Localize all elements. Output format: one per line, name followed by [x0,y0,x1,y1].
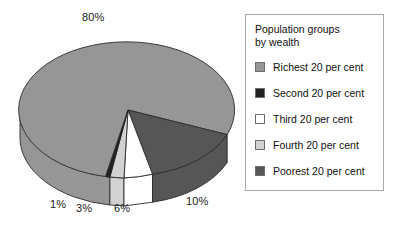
legend-title-line-1: Population groups [255,23,383,36]
legend-swatch-fourth [255,140,265,150]
legend-label-richest: Richest 20 per cent [273,61,363,73]
slice-value-label-richest: 80% [82,11,104,23]
legend-swatch-richest [255,62,265,72]
legend-label-poorest: Poorest 20 per cent [273,165,365,177]
slice-value-label-second: 1% [50,198,66,210]
legend-swatch-third [255,114,265,124]
legend-label-third: Third 20 per cent [273,113,352,125]
legend-swatch-second [255,88,265,98]
chart-legend: Population groups by wealth Richest 20 p… [245,14,384,191]
legend-item-third[interactable]: Third 20 per cent [255,107,383,130]
legend-item-poorest[interactable]: Poorest 20 per cent [255,159,383,182]
slice-value-label-fourth: 3% [76,202,92,214]
legend-title: Population groups by wealth [255,23,383,48]
pie-top-faces [19,42,235,178]
legend-swatch-poorest [255,166,265,176]
slice-value-label-poorest: 10% [186,195,208,207]
legend-title-line-2: by wealth [255,36,383,49]
legend-item-fourth[interactable]: Fourth 20 per cent [255,133,383,156]
chart-canvas: 80% 1% 3% 6% 10% Population groups by we… [0,0,400,231]
legend-label-second: Second 20 per cent [273,87,364,99]
legend-item-second[interactable]: Second 20 per cent [255,81,383,104]
legend-item-richest[interactable]: Richest 20 per cent [255,55,383,78]
legend-label-fourth: Fourth 20 per cent [273,139,359,151]
slice-value-label-third: 6% [114,202,130,214]
